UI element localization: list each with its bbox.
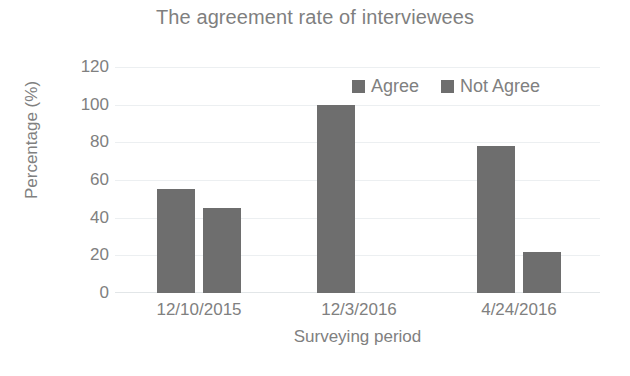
x-axis-ticks: 12/10/2015 12/3/2016 4/24/2016 bbox=[115, 300, 600, 324]
bar-not-agree-2[interactable] bbox=[523, 252, 561, 293]
y-axis-ticks: 120 100 80 60 40 20 0 bbox=[35, 67, 109, 293]
y-tick-label: 100 bbox=[39, 95, 109, 115]
x-tick-label: 12/10/2015 bbox=[156, 300, 241, 320]
chart-title: The agreement rate of interviewees bbox=[0, 6, 630, 29]
legend-swatch-icon bbox=[352, 80, 365, 93]
legend-entry-not-agree[interactable]: Not Agree bbox=[441, 76, 540, 97]
y-tick-label: 20 bbox=[39, 245, 109, 265]
y-tick-label: 120 bbox=[39, 57, 109, 77]
bar-chart: The agreement rate of interviewees Perce… bbox=[0, 0, 630, 376]
x-tick-label: 4/24/2016 bbox=[481, 300, 557, 320]
legend-label: Not Agree bbox=[460, 76, 540, 97]
legend-entry-agree[interactable]: Agree bbox=[352, 76, 419, 97]
y-tick-label: 0 bbox=[39, 283, 109, 303]
gridline bbox=[115, 180, 600, 181]
bar-agree-0[interactable] bbox=[157, 189, 195, 293]
gridline bbox=[115, 142, 600, 143]
x-axis-label: Surveying period bbox=[115, 327, 600, 347]
y-tick-label: 40 bbox=[39, 208, 109, 228]
gridline bbox=[115, 105, 600, 106]
y-tick-label: 60 bbox=[39, 170, 109, 190]
bar-agree-1[interactable] bbox=[317, 105, 355, 293]
x-tick-label: 12/3/2016 bbox=[321, 300, 397, 320]
gridline bbox=[115, 67, 600, 68]
y-tick-label: 80 bbox=[39, 132, 109, 152]
legend-swatch-icon bbox=[441, 80, 454, 93]
bar-agree-2[interactable] bbox=[477, 146, 515, 293]
bar-not-agree-0[interactable] bbox=[203, 208, 241, 293]
plot-area bbox=[115, 67, 600, 293]
legend-label: Agree bbox=[371, 76, 419, 97]
chart-legend: Agree Not Agree bbox=[352, 74, 540, 98]
